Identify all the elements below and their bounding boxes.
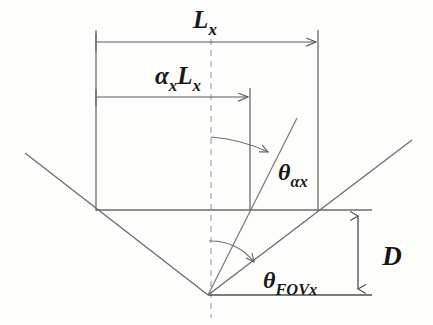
label-depth: D	[381, 241, 402, 271]
label-partial-width-subscript: x	[192, 76, 202, 95]
label-angle-fov: θFOVx	[263, 267, 317, 299]
diagram-svg: Lx αxLx θαx θFOVx D	[0, 0, 433, 325]
label-angle-alpha-base: θ	[278, 159, 291, 185]
label-partial-width-base: L	[176, 62, 192, 89]
label-angle-fov-base: θ	[263, 267, 276, 293]
label-total-width: Lx	[192, 6, 217, 39]
alpha-angle-ray	[208, 118, 297, 295]
angle-arc-fov	[209, 241, 254, 262]
label-angle-fov-subscript: FOVx	[274, 280, 317, 299]
label-angle-alpha: θαx	[278, 159, 308, 191]
label-angle-alpha-subscript: αx	[290, 172, 307, 191]
label-partial-width-prefix-base: α	[155, 62, 170, 89]
angle-arc-alpha	[211, 137, 268, 152]
left-diagonal-ray	[25, 153, 208, 295]
label-partial-width: αxLx	[155, 62, 202, 95]
label-total-width-base: L	[192, 6, 208, 33]
label-partial-width-prefix-subscript: x	[168, 76, 178, 95]
figure-canvas: Lx αxLx θαx θFOVx D	[0, 0, 433, 325]
label-total-width-subscript: x	[207, 20, 217, 39]
right-diagonal-ray	[208, 140, 412, 295]
